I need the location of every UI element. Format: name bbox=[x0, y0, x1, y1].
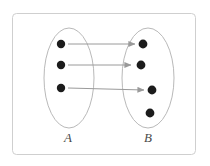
set-b-label: B bbox=[144, 130, 152, 145]
figure-border bbox=[13, 14, 196, 155]
set-b-element-2 bbox=[137, 61, 146, 70]
set-b-element-1 bbox=[139, 40, 148, 49]
set-a-element-1 bbox=[57, 40, 65, 48]
diagram-canvas: A B bbox=[0, 0, 210, 166]
set-b-element-4 bbox=[146, 109, 155, 118]
set-a-element-3 bbox=[57, 84, 65, 92]
set-b-element-3 bbox=[148, 86, 157, 95]
set-a-label: A bbox=[63, 130, 72, 145]
mapping-diagram-figure: A B bbox=[0, 0, 210, 166]
set-a-element-2 bbox=[57, 61, 65, 69]
